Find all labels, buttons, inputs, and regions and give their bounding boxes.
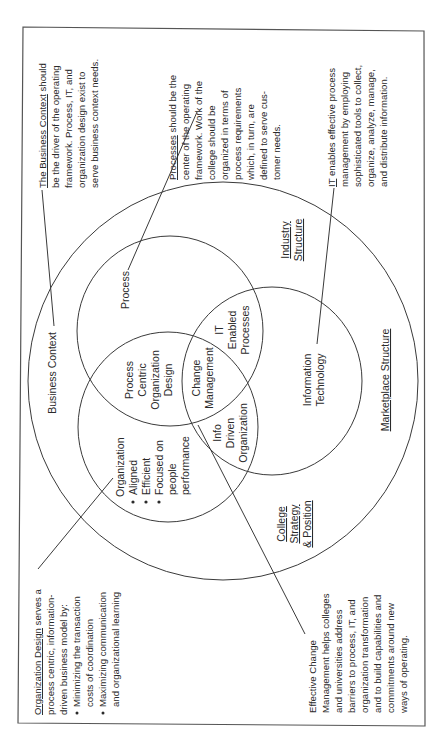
it-note-line-5: and distribute information. — [378, 77, 389, 187]
change-note-line-1: Effective Change — [307, 640, 318, 713]
business-context-note-line-1: should — [37, 63, 48, 94]
marketplace-structure-label: Marketplace Structure — [379, 328, 391, 431]
iep-line-1: IT — [213, 325, 225, 335]
change-management-group: Change Management — [190, 347, 215, 408]
svg-text:The Business Context should: The Business Context should — [37, 63, 48, 188]
organization-group: Organization Aligned Efficient Focused o… — [114, 436, 191, 504]
organization-design-bullet-1a: Minimizing the transaction — [71, 596, 82, 707]
processes-note-line-4: college should be — [206, 105, 217, 180]
it-line-1: Information — [301, 354, 313, 407]
change-management-line-1: Change — [190, 359, 202, 396]
bullet-icon — [131, 500, 134, 503]
it-line-2: Technology — [314, 353, 326, 407]
college-line-3: & Position — [301, 500, 313, 547]
organization-design-keyword: Organization Design — [32, 628, 43, 715]
business-context-ellipse — [28, 182, 418, 580]
organization-bullet-3c: performance — [179, 436, 191, 495]
business-context-note: The Business Context should be the drive… — [37, 59, 100, 188]
bullet-icon — [157, 500, 160, 503]
ido-line-3: Organization — [237, 403, 249, 463]
iep-line-2: Enabled — [226, 311, 238, 350]
iep-line-3: Processes — [239, 305, 251, 354]
business-context-note-line-4: organization design exist to — [76, 72, 87, 188]
it-note-line-3: sophisticated tools to collect, — [352, 65, 363, 187]
process-label-group: Process — [119, 271, 131, 309]
change-note-line-6: and to build capabilities and — [372, 595, 383, 713]
change-note-line-4: barriers to process, IT, and — [346, 599, 357, 713]
organization-title: Organization — [114, 437, 126, 497]
processes-note-line-5: organized in terms of — [219, 90, 230, 180]
it-note-line-4: organize, analyze, manage, — [365, 69, 376, 187]
industry-structure-group: Industry Structure — [279, 219, 304, 262]
info-driven-organization-group: Info Driven Organization — [211, 403, 249, 463]
processes-note-line-6: process requirements — [232, 88, 243, 180]
process-centric-organization-design-group: Process Centric Organization Design — [123, 350, 174, 410]
pcod-line-4: Design — [162, 363, 174, 396]
organization-design-bullet-2a: Maximizing communication — [97, 592, 108, 707]
processes-note-line-9: tomer needs. — [271, 124, 282, 180]
change-management-line-2: Management — [203, 347, 215, 408]
it-note: IT enables effective process management … — [326, 65, 389, 187]
change-note-line-8: ways of operating. — [398, 635, 409, 714]
bullet-icon — [144, 500, 147, 503]
processes-note: Processes should be the center of the op… — [167, 75, 282, 181]
business-context-leader-line — [42, 190, 54, 326]
industry-line-1: Industry — [279, 221, 291, 259]
svg-text:IT enables effective process: IT enables effective process — [326, 68, 337, 187]
ido-line-2: Driven — [224, 418, 236, 449]
processes-note-line-8: defined to serve cus- — [258, 91, 269, 180]
bullet-icon — [102, 712, 105, 715]
organization-bullet-1: Aligned — [127, 460, 139, 495]
process-label: Process — [119, 271, 131, 309]
college-line-2: Strategy — [288, 504, 300, 544]
college-strategy-group: College Strategy & Position — [275, 500, 313, 547]
business-context-keyword: The Business Context — [37, 94, 48, 188]
pcod-line-1: Process — [123, 361, 135, 399]
organization-bullet-3: Focused on — [153, 440, 165, 495]
ido-line-1: Info — [211, 424, 223, 442]
processes-note-line-2: center of the operating — [180, 84, 191, 180]
business-context-note-line-5: serve business context needs. — [89, 59, 100, 188]
change-note-line-2: Management helps colleges — [320, 593, 331, 713]
industry-line-2: Structure — [292, 219, 304, 262]
organization-design-leader-line — [38, 478, 113, 569]
it-note-line-1: enables effective process — [326, 68, 337, 179]
business-context-label-group: Business Context — [46, 332, 58, 414]
organization-design-note-line-2: process centric, information- — [45, 595, 56, 716]
organization-design-note: Organization Design serves a process cen… — [32, 588, 121, 715]
business-context-label: Business Context — [46, 332, 58, 414]
marketplace-structure-group: Marketplace Structure — [379, 328, 391, 431]
business-framework-diagram: Business Context Process Process Centric… — [0, 0, 434, 744]
processes-note-line-7: which, in turn, are — [245, 104, 256, 181]
business-context-note-line-2: be the driver of the operating — [50, 65, 61, 188]
it-enabled-processes-group: IT Enabled Processes — [213, 305, 251, 354]
pcod-line-2: Centric — [136, 363, 148, 396]
processes-note-line-1: should be the — [167, 75, 178, 135]
organization-design-bullet-2b: and organizational learning — [110, 592, 121, 707]
pcod-line-3: Organization — [149, 350, 161, 410]
business-context-note-line-3: framework. Process, IT, and — [63, 69, 74, 188]
organization-bullet-3b: people — [166, 463, 178, 495]
information-technology-group: Information Technology — [301, 353, 326, 407]
svg-text:Organization Design serves a: Organization Design serves a — [32, 588, 43, 715]
organization-design-note-line-3: driven business model by: — [58, 604, 69, 715]
processes-keyword: Processes — [167, 135, 178, 180]
college-line-1: College — [275, 506, 287, 542]
processes-note-line-3: framework. Work of the — [193, 81, 204, 180]
organization-bullet-2: Efficient — [140, 458, 152, 495]
it-note-line-2: management by employing — [339, 72, 350, 187]
organization-design-note-line-1: serves a — [32, 588, 43, 628]
organization-design-bullet-1b: costs of coordination — [84, 619, 95, 707]
change-note-line-5: organization transformation — [359, 597, 370, 713]
change-note-line-3: and universities address — [333, 609, 344, 713]
svg-text:Processes should be the: Processes should be the — [167, 75, 178, 180]
bullet-icon — [76, 712, 79, 715]
it-keyword: IT — [326, 178, 337, 187]
change-note-line-7: commitments around new — [385, 603, 396, 713]
change-management-note: Effective Change Management helps colleg… — [307, 593, 409, 714]
